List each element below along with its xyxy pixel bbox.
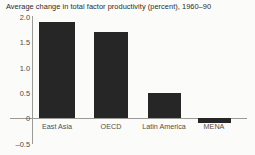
chart-figure: Average change in total factor productiv… (0, 0, 255, 155)
x-tick-label-oecd: OECD (101, 122, 122, 131)
x-axis-category-labels: East Asia OECD Latin America MENA (0, 0, 255, 155)
x-tick-label-east-asia: East Asia (42, 122, 72, 131)
x-tick-label-latin-america: Latin America (142, 122, 186, 131)
x-tick-label-mena: MENA (204, 122, 225, 131)
